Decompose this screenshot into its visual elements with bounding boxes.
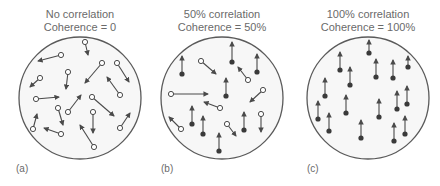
random-dot (58, 52, 63, 57)
random-dot-motion-diagram (0, 0, 440, 186)
aperture-circle (161, 37, 283, 159)
random-dot (65, 69, 70, 74)
coherent-dot (216, 148, 221, 153)
coherent-dot (391, 138, 396, 143)
coherent-dot (223, 93, 228, 98)
random-dot (178, 126, 183, 131)
coherent-dot (347, 82, 352, 87)
coherent-dot (376, 114, 381, 119)
coherent-dot (189, 121, 194, 126)
coherent-dot (241, 127, 246, 132)
random-dot (30, 126, 35, 131)
random-dot (65, 109, 70, 114)
coherent-dot (405, 64, 410, 69)
random-dot (82, 39, 87, 44)
coherent-dot (315, 116, 320, 121)
coherent-dot (229, 59, 234, 64)
random-dot (114, 60, 119, 65)
coherent-dot (373, 74, 378, 79)
coherent-dot (200, 131, 205, 136)
coherent-dot (326, 128, 331, 133)
random-dot (224, 121, 229, 126)
panel-a-field (19, 37, 141, 159)
coherent-dot (402, 131, 407, 136)
random-dot (258, 111, 263, 116)
coherent-dot (366, 50, 371, 55)
random-dot (99, 60, 104, 65)
panel-c-field (307, 37, 429, 159)
coherent-dot (179, 71, 184, 76)
random-dot (117, 125, 122, 130)
random-dot (58, 131, 63, 136)
coherent-dot (404, 101, 409, 106)
random-dot (245, 77, 250, 82)
coherent-dot (337, 67, 342, 72)
coherent-dot (358, 135, 363, 140)
random-dot (217, 105, 222, 110)
panel-b-field (161, 37, 283, 159)
coherent-dot (322, 93, 327, 98)
random-dot (198, 58, 203, 63)
random-dot (260, 87, 265, 92)
random-dot (33, 96, 38, 101)
random-dot (90, 109, 95, 114)
coherent-dot (390, 75, 395, 80)
random-dot (91, 144, 96, 149)
random-dot (55, 105, 60, 110)
coherent-dot (254, 69, 259, 74)
coherent-dot (394, 106, 399, 111)
coherent-dot (343, 110, 348, 115)
random-dot (168, 91, 173, 96)
random-dot (89, 94, 94, 99)
random-dot (37, 75, 42, 80)
random-dot (117, 92, 122, 97)
